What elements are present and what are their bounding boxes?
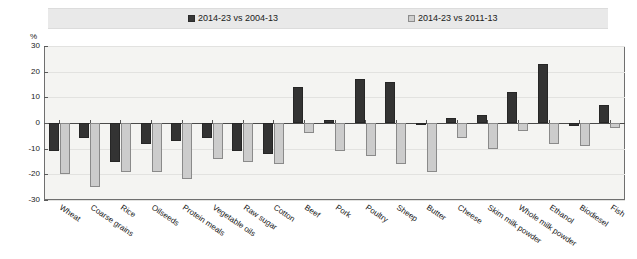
x-axis-label: Beef [303, 203, 322, 220]
x-axis-label: Coarse grains [89, 203, 135, 238]
bar [457, 123, 467, 138]
bar [49, 123, 59, 151]
bar [507, 92, 517, 123]
bar [335, 123, 345, 151]
bar [569, 123, 579, 126]
x-axis-label: Rice [119, 203, 137, 219]
chart-legend: 2014-23 vs 2004-13 2014-23 vs 2011-13 [48, 8, 608, 29]
x-axis-label: Poultry [364, 203, 390, 224]
x-axis-label: Whole milk powder [517, 203, 578, 248]
x-axis-label: Pork [333, 203, 352, 220]
bar [90, 123, 100, 187]
legend-item-1: 2014-23 vs 2011-13 [408, 11, 497, 25]
bar [549, 123, 559, 144]
x-axis-label: Cotton [272, 203, 297, 224]
bar [610, 123, 620, 128]
bar [416, 123, 426, 125]
bar [171, 123, 181, 141]
y-tick-label: -30 [24, 195, 40, 204]
bar [110, 123, 120, 162]
hatched-square-icon [408, 15, 415, 22]
bar [580, 123, 590, 146]
x-axis-label: Butter [425, 203, 448, 222]
plot-area [44, 46, 625, 200]
bar [232, 123, 242, 151]
bar [385, 82, 395, 123]
x-axis-label: Wheat [58, 203, 82, 223]
bar [182, 123, 192, 179]
y-tick-label: 10 [24, 92, 40, 101]
x-axis-label: Vegetable oils [211, 203, 257, 238]
bar [304, 123, 314, 133]
bar [396, 123, 406, 164]
x-axis-label: Raw sugar [242, 203, 279, 232]
bar [79, 123, 89, 138]
bar [355, 79, 365, 123]
x-axis-label: Biodiesel [578, 203, 610, 229]
chart-page: 2014-23 vs 2004-13 2014-23 vs 2011-13 % … [0, 0, 637, 259]
x-axis-label: Oilseeds [150, 203, 181, 228]
y-axis-unit: % [30, 32, 37, 41]
bar [152, 123, 162, 172]
legend-item-0: 2014-23 vs 2004-13 [188, 11, 278, 25]
bar [518, 123, 528, 131]
legend-label-1: 2014-23 vs 2011-13 [418, 11, 497, 25]
y-tick-label: -20 [24, 169, 40, 178]
x-axis-label: Cheese [456, 203, 484, 226]
y-tick-label: -10 [24, 144, 40, 153]
filled-square-icon [188, 15, 195, 22]
bar [293, 87, 303, 123]
bar [202, 123, 212, 138]
bar [324, 120, 334, 123]
bar [60, 123, 70, 174]
y-tick-label: 0 [24, 118, 40, 127]
bar-series-layer [44, 46, 625, 200]
bar [366, 123, 376, 156]
bar [477, 115, 487, 123]
x-axis-label: Skim milk powder [486, 203, 543, 246]
y-tick-label: 30 [24, 41, 40, 50]
bar [263, 123, 273, 154]
bar [141, 123, 151, 144]
bar [446, 118, 456, 123]
bar [243, 123, 253, 162]
x-axis-label: Sheep [395, 203, 419, 223]
bar [274, 123, 284, 164]
y-tick-mark [44, 200, 48, 201]
x-axis-label: Fish [609, 203, 627, 219]
bar [488, 123, 498, 149]
x-axis-label: Protein meals [181, 203, 227, 238]
bar [427, 123, 437, 172]
bar [121, 123, 131, 172]
bar [599, 105, 609, 123]
bar [213, 123, 223, 159]
legend-label-0: 2014-23 vs 2004-13 [198, 11, 278, 25]
gridline [44, 200, 625, 201]
bar [538, 64, 548, 123]
y-tick-label: 20 [24, 67, 40, 76]
x-axis-label: Ethanol [548, 203, 576, 226]
